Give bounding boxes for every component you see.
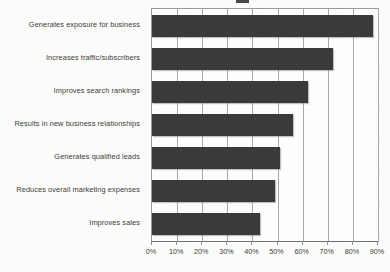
x-tick-label: 80% [345, 247, 359, 256]
bar [152, 213, 260, 235]
x-tick [377, 241, 378, 245]
bar [152, 147, 280, 169]
x-tick [251, 241, 252, 245]
x-tick-label: 60% [294, 247, 308, 256]
gridline-60 [303, 9, 304, 241]
bar [152, 180, 275, 202]
x-tick [151, 241, 152, 245]
bar [152, 81, 308, 103]
x-tick [176, 241, 177, 245]
category-label: Results in new business relationships [0, 119, 140, 128]
gridline-80 [353, 9, 354, 241]
bar-chart: Generates exposure for businessIncreases… [0, 0, 390, 272]
x-tick [327, 241, 328, 245]
bar [152, 15, 373, 37]
x-tick-label: 70% [320, 247, 334, 256]
plot-area [151, 8, 379, 242]
category-label: Generates exposure for business [0, 20, 140, 29]
x-axis: 0%10%20%30%40%50%60%70%80%90% [151, 241, 378, 265]
bar [152, 114, 293, 136]
category-label: Increases traffic/subscribers [0, 53, 140, 62]
x-tick [277, 241, 278, 245]
x-tick [352, 241, 353, 245]
category-label: Improves search rankings [0, 86, 140, 95]
x-tick [302, 241, 303, 245]
category-label: Improves sales [0, 218, 140, 227]
category-label: Generates qualified leads [0, 152, 140, 161]
gridline-90 [378, 9, 379, 241]
cropped-title-remnant [236, 0, 249, 3]
x-tick [226, 241, 227, 245]
bar [152, 48, 333, 70]
x-tick-label: 90% [370, 247, 384, 256]
category-label-column: Generates exposure for businessIncreases… [0, 8, 146, 240]
x-tick [201, 241, 202, 245]
x-tick-label: 50% [269, 247, 283, 256]
x-tick-label: 30% [219, 247, 233, 256]
x-tick-label: 0% [146, 247, 156, 256]
x-tick-label: 20% [194, 247, 208, 256]
x-tick-label: 10% [169, 247, 183, 256]
gridline-70 [328, 9, 329, 241]
category-label: Reduces overall marketing expenses [0, 185, 140, 194]
x-tick-label: 40% [244, 247, 258, 256]
